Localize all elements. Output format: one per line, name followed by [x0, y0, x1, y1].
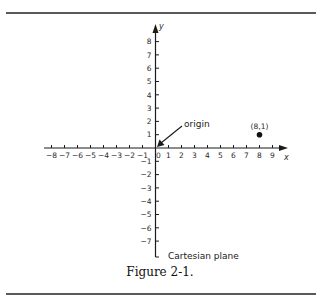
y-tick-label: 5: [147, 77, 152, 86]
y-tick-label: 8: [147, 37, 152, 46]
origin-annotation: origin: [157, 119, 210, 147]
cartesian-plane-figure: −8−7−6−5−4−3−2−10123456789 x −7−6−5−4−3−…: [0, 0, 316, 304]
x-axis-arrow-icon: [279, 145, 288, 151]
origin-label: origin: [184, 119, 210, 129]
y-tick-label: 2: [147, 117, 152, 126]
plane-label: Cartesian plane: [168, 251, 239, 261]
x-axis-label: x: [283, 153, 289, 162]
y-tick-label: 6: [147, 64, 152, 73]
point-label: (8,1): [251, 122, 269, 131]
y-axis-label: y: [158, 22, 164, 31]
y-axis-arrow-icon: [153, 24, 159, 33]
x-tick-label: −5: [85, 151, 96, 160]
x-tick-label: −7: [59, 151, 70, 160]
y-tick-label: 1: [147, 130, 152, 139]
x-tick-label: −2: [124, 151, 135, 160]
x-tick-label: 5: [218, 151, 223, 160]
x-tick-label: 7: [244, 151, 249, 160]
y-tick-label: −4: [140, 197, 151, 206]
x-tick-label: −6: [72, 151, 83, 160]
y-tick-label: −7: [140, 237, 151, 246]
x-tick-label: 9: [270, 151, 275, 160]
y-tick-label: 4: [147, 91, 152, 100]
x-tick-label: 2: [179, 151, 184, 160]
y-tick-label: −3: [140, 184, 151, 193]
y-axis: −7−6−5−4−3−2−112345678 y: [140, 22, 164, 257]
y-tick-label: 7: [147, 51, 152, 60]
figure-caption: Figure 2-1.: [126, 265, 193, 279]
x-ticks: −8−7−6−5−4−3−2−10123456789: [46, 145, 275, 160]
x-axis: −8−7−6−5−4−3−2−10123456789 x: [44, 145, 289, 162]
y-tick-label: −5: [140, 210, 151, 219]
y-tick-label: −1: [140, 157, 151, 166]
x-tick-label: 0: [156, 151, 161, 160]
x-tick-label: −3: [111, 151, 122, 160]
y-ticks: −7−6−5−4−3−2−112345678: [140, 37, 159, 246]
x-tick-label: 4: [205, 151, 210, 160]
x-tick-label: 6: [231, 151, 236, 160]
x-tick-label: 1: [166, 151, 171, 160]
y-tick-label: 3: [147, 104, 152, 113]
data-point: (8,1): [251, 122, 269, 138]
x-tick-label: 8: [257, 151, 262, 160]
x-tick-label: −4: [98, 151, 109, 160]
y-tick-label: −6: [140, 224, 151, 233]
y-tick-label: −2: [140, 170, 151, 179]
x-tick-label: −8: [46, 151, 57, 160]
x-tick-label: 3: [192, 151, 197, 160]
